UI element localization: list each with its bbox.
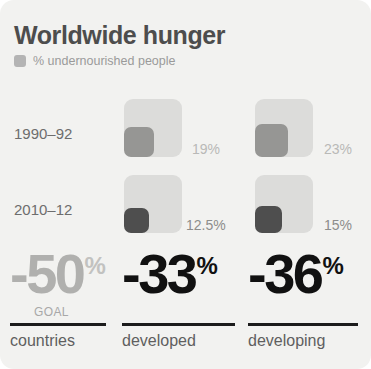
divider (248, 323, 358, 326)
stat-block-developed: -33 % developed (122, 248, 242, 369)
value-label: 23% (324, 141, 352, 157)
stat-percent-sign: % (196, 254, 217, 278)
bar-group-developing (255, 99, 313, 157)
divider (10, 323, 106, 326)
value-square (255, 206, 282, 233)
bar-group-developing (255, 175, 313, 233)
legend: % undernourished people (14, 54, 354, 68)
stat-figure: -36 % (248, 248, 344, 300)
bar-group-developed (124, 99, 182, 157)
table-row: 1990–92 19% 23% (0, 97, 371, 175)
value-label: 12.5% (186, 217, 226, 233)
value-label: 19% (192, 141, 220, 157)
stat-figure: -50 % (10, 248, 106, 300)
value-square (124, 127, 154, 157)
stat-block-countries: -50 % GOAL countries (10, 248, 116, 369)
stat-number: -50 (10, 248, 83, 300)
legend-swatch-icon (14, 55, 26, 67)
value-label: 15% (324, 217, 352, 233)
stat-caption: developing (248, 332, 325, 350)
stat-caption: countries (10, 332, 75, 350)
stat-figure: -33 % (122, 248, 218, 300)
bar-group-developed (124, 175, 182, 233)
stat-percent-sign: % (322, 254, 343, 278)
stat-caption: developed (122, 332, 196, 350)
stat-goal-label: GOAL (34, 305, 69, 319)
row-label-period: 2010–12 (14, 201, 72, 218)
summary-stats: -50 % GOAL countries -33 % developed -36… (0, 248, 371, 369)
value-square (124, 208, 149, 233)
value-square (255, 124, 288, 157)
infographic-card: Worldwide hunger % undernourished people… (0, 0, 371, 369)
divider (122, 323, 235, 326)
legend-label: % undernourished people (33, 54, 175, 68)
stat-percent-sign: % (84, 254, 105, 278)
table-row: 2010–12 12.5% 15% (0, 173, 371, 251)
stat-number: -33 (122, 248, 195, 300)
page-title: Worldwide hunger (14, 22, 354, 48)
header: Worldwide hunger % undernourished people (14, 22, 354, 68)
stat-block-developing: -36 % developing (248, 248, 366, 369)
stat-number: -36 (248, 248, 321, 300)
row-label-period: 1990–92 (14, 125, 72, 142)
